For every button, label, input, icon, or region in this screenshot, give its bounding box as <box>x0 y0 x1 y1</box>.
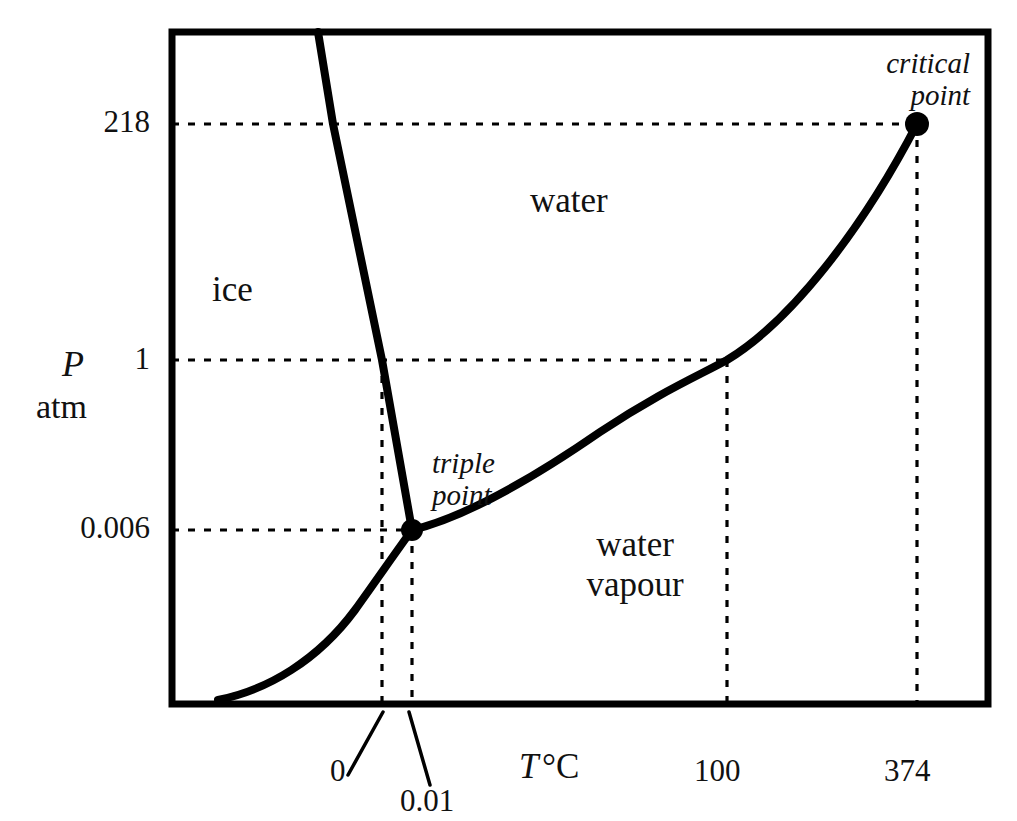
x-axis-unit: °C <box>542 749 579 784</box>
y-tick-label-0006: 0.006 <box>10 512 150 543</box>
region-label-ice: ice <box>212 272 253 307</box>
annotation-critical-point-line2: point <box>790 79 970 111</box>
annotation-triple-point-line2: point <box>432 479 552 511</box>
annotation-triple-point-line1: triple <box>432 447 552 479</box>
region-label-water: water <box>530 183 608 218</box>
x-tick-label-100: 100 <box>694 755 741 786</box>
phase-diagram-figure: 218 1 0.006 P atm 0 0.01 100 374 T °C ic… <box>0 0 1017 821</box>
x-axis-symbol: T <box>519 749 538 784</box>
x-tick-label-374: 374 <box>884 755 931 786</box>
leader-line-0-celsius <box>348 712 383 775</box>
leader-line-001-celsius <box>409 712 430 785</box>
annotation-critical-point: critical point <box>790 47 970 112</box>
region-label-water-vapour-line2: vapour <box>525 565 745 605</box>
y-axis-symbol: P <box>62 346 84 382</box>
x-tick-label-001: 0.01 <box>400 785 454 816</box>
phase-diagram-canvas <box>0 0 1017 821</box>
y-axis-unit: atm <box>36 390 87 424</box>
fusion-curve <box>318 32 412 530</box>
x-tick-label-0: 0 <box>330 755 346 786</box>
annotation-triple-point: triple point <box>432 447 552 512</box>
critical-point-marker <box>905 112 929 136</box>
region-label-water-vapour: water vapour <box>525 525 745 606</box>
triple-point-marker <box>401 519 423 541</box>
y-tick-label-1: 1 <box>20 343 150 374</box>
region-label-water-vapour-line1: water <box>525 525 745 565</box>
annotation-critical-point-line1: critical <box>790 47 970 79</box>
y-tick-label-218: 218 <box>20 106 150 137</box>
